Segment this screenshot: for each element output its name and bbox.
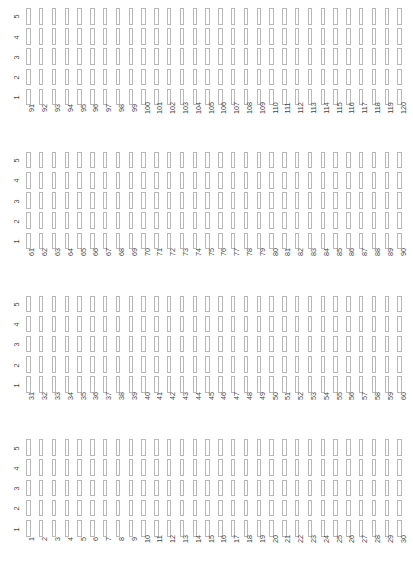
grid-cell[interactable] <box>141 336 146 353</box>
grid-cell[interactable] <box>52 172 57 189</box>
grid-cell[interactable] <box>205 233 210 250</box>
grid-cell[interactable] <box>218 296 223 313</box>
grid-cell[interactable] <box>308 500 313 517</box>
grid-cell[interactable] <box>141 28 146 45</box>
grid-cell[interactable] <box>231 8 236 25</box>
grid-cell[interactable] <box>52 152 57 169</box>
grid-cell[interactable] <box>218 336 223 353</box>
grid-cell[interactable] <box>129 152 134 169</box>
grid-cell[interactable] <box>77 336 82 353</box>
grid-cell[interactable] <box>65 439 70 456</box>
grid-cell[interactable] <box>282 28 287 45</box>
grid-cell[interactable] <box>333 480 338 497</box>
grid-cell[interactable] <box>295 48 300 65</box>
grid-cell[interactable] <box>321 439 326 456</box>
grid-cell[interactable] <box>321 172 326 189</box>
grid-cell[interactable] <box>295 500 300 517</box>
grid-cell[interactable] <box>65 8 70 25</box>
grid-cell[interactable] <box>346 28 351 45</box>
grid-cell[interactable] <box>321 28 326 45</box>
grid-cell[interactable] <box>295 296 300 313</box>
grid-cell[interactable] <box>346 233 351 250</box>
grid-cell[interactable] <box>385 69 390 86</box>
grid-cell[interactable] <box>218 8 223 25</box>
grid-cell[interactable] <box>244 500 249 517</box>
grid-cell[interactable] <box>333 356 338 373</box>
grid-cell[interactable] <box>257 48 262 65</box>
grid-cell[interactable] <box>65 296 70 313</box>
grid-cell[interactable] <box>308 192 313 209</box>
grid-cell[interactable] <box>282 8 287 25</box>
grid-cell[interactable] <box>346 296 351 313</box>
grid-cell[interactable] <box>180 459 185 476</box>
grid-cell[interactable] <box>397 152 402 169</box>
grid-cell[interactable] <box>141 439 146 456</box>
grid-cell[interactable] <box>372 296 377 313</box>
grid-cell[interactable] <box>39 212 44 229</box>
grid-cell[interactable] <box>397 480 402 497</box>
grid-cell[interactable] <box>231 459 236 476</box>
grid-cell[interactable] <box>397 500 402 517</box>
grid-cell[interactable] <box>244 480 249 497</box>
grid-cell[interactable] <box>103 152 108 169</box>
grid-cell[interactable] <box>231 296 236 313</box>
grid-cell[interactable] <box>65 233 70 250</box>
grid-cell[interactable] <box>269 192 274 209</box>
grid-cell[interactable] <box>193 69 198 86</box>
grid-cell[interactable] <box>321 233 326 250</box>
grid-cell[interactable] <box>141 316 146 333</box>
grid-cell[interactable] <box>154 336 159 353</box>
grid-cell[interactable] <box>141 459 146 476</box>
grid-cell[interactable] <box>333 48 338 65</box>
grid-cell[interactable] <box>193 480 198 497</box>
grid-cell[interactable] <box>244 48 249 65</box>
grid-cell[interactable] <box>308 212 313 229</box>
grid-cell[interactable] <box>39 316 44 333</box>
grid-cell[interactable] <box>385 356 390 373</box>
grid-cell[interactable] <box>397 356 402 373</box>
grid-cell[interactable] <box>295 356 300 373</box>
grid-cell[interactable] <box>52 480 57 497</box>
grid-cell[interactable] <box>321 296 326 313</box>
grid-cell[interactable] <box>103 69 108 86</box>
grid-cell[interactable] <box>154 459 159 476</box>
grid-cell[interactable] <box>218 172 223 189</box>
grid-cell[interactable] <box>308 8 313 25</box>
grid-cell[interactable] <box>129 233 134 250</box>
grid-cell[interactable] <box>154 192 159 209</box>
grid-cell[interactable] <box>372 439 377 456</box>
grid-cell[interactable] <box>282 48 287 65</box>
grid-cell[interactable] <box>129 520 134 537</box>
grid-cell[interactable] <box>333 376 338 393</box>
grid-cell[interactable] <box>244 336 249 353</box>
grid-cell[interactable] <box>167 48 172 65</box>
grid-cell[interactable] <box>77 233 82 250</box>
grid-cell[interactable] <box>397 28 402 45</box>
grid-cell[interactable] <box>167 233 172 250</box>
grid-cell[interactable] <box>52 356 57 373</box>
grid-cell[interactable] <box>141 356 146 373</box>
grid-cell[interactable] <box>257 316 262 333</box>
grid-cell[interactable] <box>26 500 31 517</box>
grid-cell[interactable] <box>385 192 390 209</box>
grid-cell[interactable] <box>295 336 300 353</box>
grid-cell[interactable] <box>244 8 249 25</box>
grid-cell[interactable] <box>193 212 198 229</box>
grid-cell[interactable] <box>154 500 159 517</box>
grid-cell[interactable] <box>39 480 44 497</box>
grid-cell[interactable] <box>39 233 44 250</box>
grid-cell[interactable] <box>129 480 134 497</box>
grid-cell[interactable] <box>39 500 44 517</box>
grid-cell[interactable] <box>372 28 377 45</box>
grid-cell[interactable] <box>359 296 364 313</box>
grid-cell[interactable] <box>231 233 236 250</box>
grid-cell[interactable] <box>346 439 351 456</box>
grid-cell[interactable] <box>372 212 377 229</box>
grid-cell[interactable] <box>282 459 287 476</box>
grid-cell[interactable] <box>346 8 351 25</box>
grid-cell[interactable] <box>77 520 82 537</box>
grid-cell[interactable] <box>205 69 210 86</box>
grid-cell[interactable] <box>116 480 121 497</box>
grid-cell[interactable] <box>129 69 134 86</box>
grid-cell[interactable] <box>103 8 108 25</box>
